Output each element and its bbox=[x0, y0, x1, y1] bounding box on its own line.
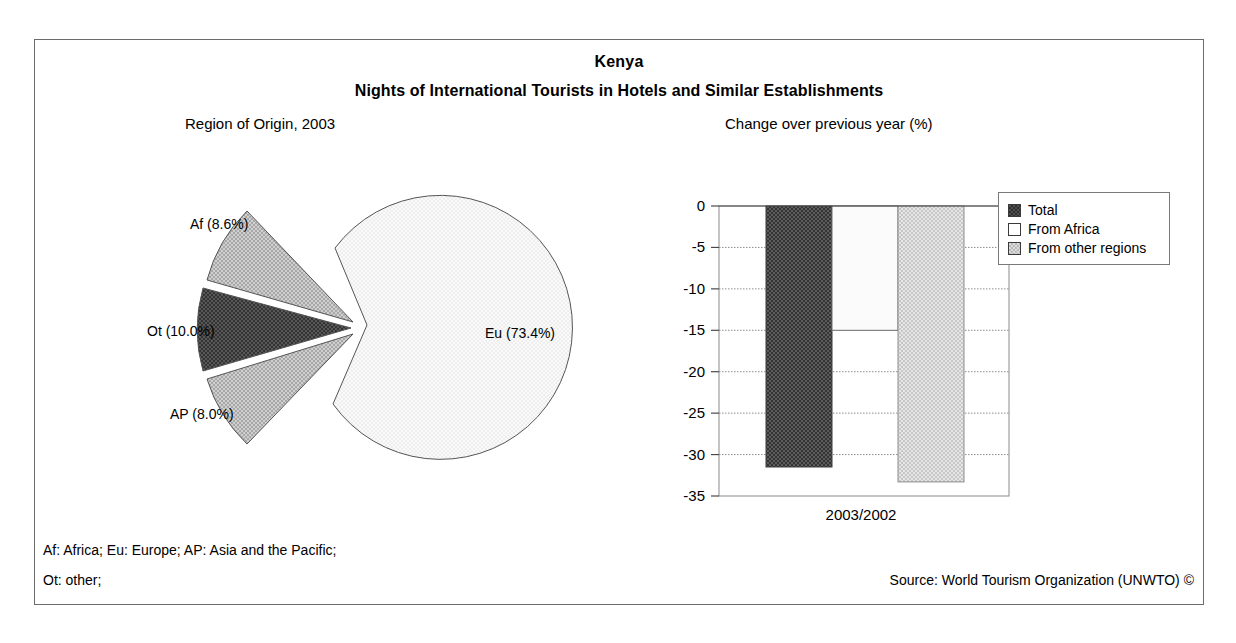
y-tick-30: -30 bbox=[683, 446, 705, 463]
y-tick-35: -35 bbox=[683, 487, 705, 504]
y-tick-0: 0 bbox=[697, 197, 705, 214]
y-tick-10: -10 bbox=[683, 280, 705, 297]
pie-label-ap: AP (8.0%) bbox=[170, 406, 234, 422]
legend-item-total[interactable]: Total bbox=[1008, 203, 1160, 217]
legend-swatch-from-other-regions-icon bbox=[1008, 242, 1021, 255]
footnote-abbreviations-line2: Ot: other; bbox=[43, 572, 101, 588]
chart-frame: Kenya Nights of International Tourists i… bbox=[34, 39, 1204, 605]
pie-chart: Af (8.6%) Ot (10.0%) AP (8.0%) Eu (73.4%… bbox=[95, 150, 625, 510]
chart-main-title: Nights of International Tourists in Hote… bbox=[35, 82, 1203, 100]
y-tick-25: -25 bbox=[683, 404, 705, 421]
footnote-abbreviations-line1: Af: Africa; Eu: Europe; AP: Asia and the… bbox=[43, 542, 336, 558]
bar-chart-svg: 0 -5 -10 -15 -20 -25 -30 -35 bbox=[635, 148, 1055, 548]
chart-country-title: Kenya bbox=[35, 53, 1203, 71]
legend-label-from-other-regions: From other regions bbox=[1028, 241, 1146, 255]
legend-item-from-other-regions[interactable]: From other regions bbox=[1008, 241, 1160, 255]
pie-label-af: Af (8.6%) bbox=[190, 216, 248, 232]
pie-label-eu: Eu (73.4%) bbox=[485, 325, 555, 341]
y-tick-20: -20 bbox=[683, 363, 705, 380]
legend-item-from-africa[interactable]: From Africa bbox=[1008, 222, 1160, 236]
pie-panel-title: Region of Origin, 2003 bbox=[185, 115, 335, 132]
bar-total bbox=[766, 206, 832, 467]
x-axis-label: 2003/2002 bbox=[771, 506, 951, 523]
bar-from-africa bbox=[832, 206, 898, 330]
source-attribution: Source: World Tourism Organization (UNWT… bbox=[890, 572, 1194, 588]
y-tick-5: -5 bbox=[692, 238, 705, 255]
legend-label-total: Total bbox=[1028, 203, 1058, 217]
legend-swatch-from-africa-icon bbox=[1008, 223, 1021, 236]
y-tick-15: -15 bbox=[683, 321, 705, 338]
legend-swatch-total-icon bbox=[1008, 204, 1021, 217]
bar-chart: 0 -5 -10 -15 -20 -25 -30 -35 2003/2002 bbox=[635, 148, 1055, 548]
bar-from-other-regions bbox=[898, 206, 964, 482]
bar-chart-legend: Total From Africa From other regions bbox=[998, 192, 1170, 265]
y-axis-ticks bbox=[711, 206, 719, 496]
bar-panel-title: Change over previous year (%) bbox=[725, 115, 933, 132]
legend-label-from-africa: From Africa bbox=[1028, 222, 1100, 236]
pie-label-ot: Ot (10.0%) bbox=[147, 323, 215, 339]
